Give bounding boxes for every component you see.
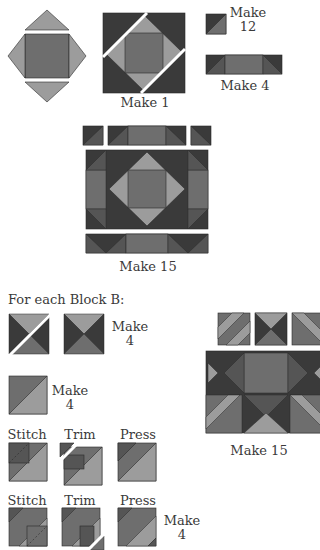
qst-make-4-label: Make 4: [110, 320, 150, 348]
square-in-square-exploded-diagram: [8, 8, 86, 98]
trim-label-row1: Trim: [60, 428, 100, 442]
side-strip-unit: [206, 55, 282, 74]
block-a-make-15-label: Make 15: [112, 260, 184, 274]
quarter-square-triangle-unit: [64, 314, 104, 354]
press-label-row1: Press: [116, 428, 160, 442]
block-b-heading: For each Block B:: [8, 292, 124, 307]
make-12-label: Make 12: [228, 6, 268, 34]
block-a-assembly-diagram: [83, 126, 211, 254]
square-in-square-unit-diagram: [103, 13, 185, 93]
hst-make-4-label: Make 4: [50, 384, 90, 412]
press-step-row1: [118, 443, 156, 481]
stitch-label-row2: Stitch: [4, 494, 50, 508]
make-4-label: Make 4: [215, 79, 275, 93]
stitch-label-row1: Stitch: [4, 428, 50, 442]
half-square-triangle-unit: [206, 14, 226, 34]
block-b-assembly-diagram: [218, 313, 318, 433]
quarter-square-triangle-cut: [9, 314, 49, 354]
trim-step-row1: [60, 443, 102, 485]
press-step-row2: [118, 508, 156, 546]
stitch-step-row1: [9, 443, 47, 481]
trim-step-row2: [62, 508, 104, 550]
half-square-triangle-light-unit: [9, 376, 47, 414]
block-b-make-15-label: Make 15: [222, 444, 296, 458]
stitch-step-row2: [9, 508, 47, 546]
trim-label-row2: Trim: [60, 494, 100, 508]
row2-make-4-label: Make 4: [162, 514, 202, 542]
make-1-label: Make 1: [112, 96, 178, 110]
press-label-row2: Press: [116, 494, 160, 508]
